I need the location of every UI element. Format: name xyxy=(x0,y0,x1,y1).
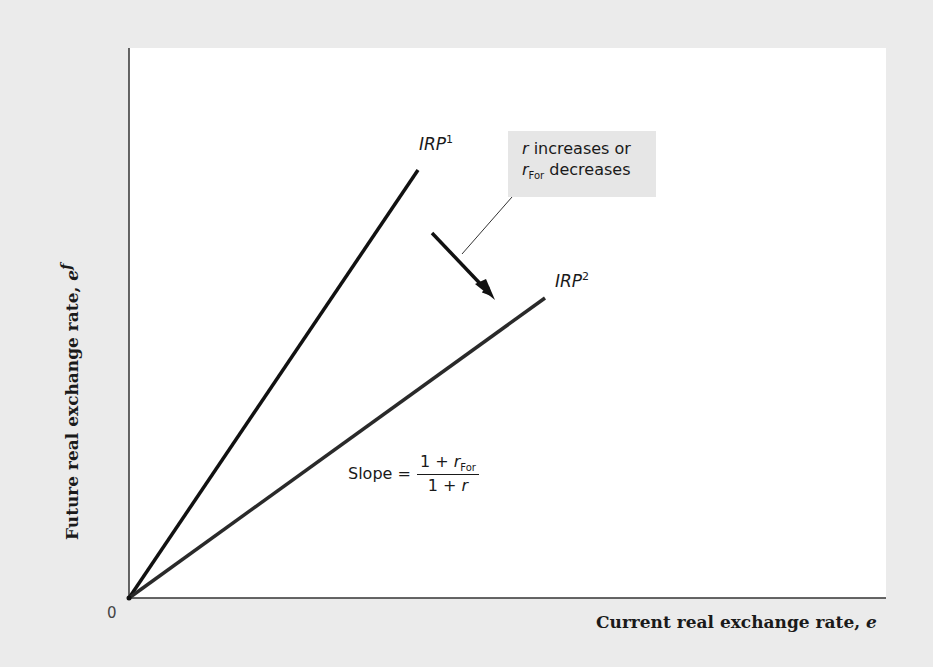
slope-formula: Slope = 1 + rFor 1 + r xyxy=(348,452,479,495)
shift-callout-box: r increases or rFor decreases xyxy=(508,131,656,197)
irp-diagram: Future real exchange rate, ef Current re… xyxy=(0,0,933,667)
diagram-graphics xyxy=(0,0,933,667)
origin-label: 0 xyxy=(107,604,117,622)
y-axis-label: Future real exchange rate, ef xyxy=(58,264,82,540)
x-axis-label: Current real exchange rate, e xyxy=(596,612,877,632)
slope-fraction: 1 + rFor 1 + r xyxy=(417,452,479,495)
irp2-label: IRP2 xyxy=(555,270,589,291)
irp1-line xyxy=(129,170,418,598)
callout-leader-line xyxy=(462,197,512,254)
irp2-line xyxy=(129,298,545,598)
origin-point xyxy=(127,596,132,601)
irp1-label: IRP1 xyxy=(419,133,453,154)
